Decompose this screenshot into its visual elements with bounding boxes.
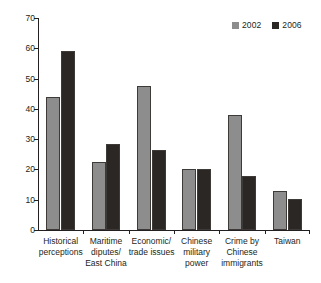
bar-2006-1 [106, 144, 120, 230]
x-tick-3 [174, 230, 175, 234]
y-tick-label-30: 30 [26, 135, 35, 144]
bar-2002-5 [273, 191, 287, 230]
x-tick-5 [265, 230, 266, 234]
bar-2002-0 [46, 97, 60, 230]
category-label-1: Maritimediputes/East China [83, 236, 128, 269]
x-tick-2 [129, 230, 130, 234]
bar-2002-1 [92, 162, 106, 230]
bar-2006-4 [242, 176, 256, 231]
category-label-4: Crime byChineseimmigrants [219, 236, 264, 269]
bar-2002-2 [137, 86, 151, 230]
y-tick-label-50: 50 [26, 74, 35, 83]
y-tick-label-60: 60 [26, 44, 35, 53]
x-axis-category-labels: HistoricalperceptionsMaritimediputes/Eas… [38, 236, 310, 281]
y-tick-label-40: 40 [26, 104, 35, 113]
bar-chart: 2002 2006 010203040506070 Historicalperc… [0, 0, 321, 283]
bar-2006-2 [152, 150, 166, 230]
bar-2006-3 [197, 169, 211, 230]
y-tick-label-20: 20 [26, 165, 35, 174]
bars-layer [38, 18, 310, 230]
bar-2006-0 [61, 51, 75, 230]
y-tick-label-70: 70 [26, 14, 35, 23]
bar-2002-4 [228, 115, 242, 230]
category-label-5: Taiwan [265, 236, 310, 247]
x-tick-4 [219, 230, 220, 234]
x-tick-end [309, 230, 310, 234]
y-tick-label-10: 10 [26, 195, 35, 204]
category-label-2: Economic/trade issues [129, 236, 174, 258]
plot-area: 010203040506070 [38, 18, 310, 230]
bar-2002-3 [182, 169, 196, 230]
category-label-3: Chinesemilitarypower [174, 236, 219, 269]
bar-2006-5 [288, 199, 302, 230]
x-tick-1 [83, 230, 84, 234]
y-tick-label-0: 0 [30, 226, 35, 235]
category-label-0: Historicalperceptions [38, 236, 83, 258]
